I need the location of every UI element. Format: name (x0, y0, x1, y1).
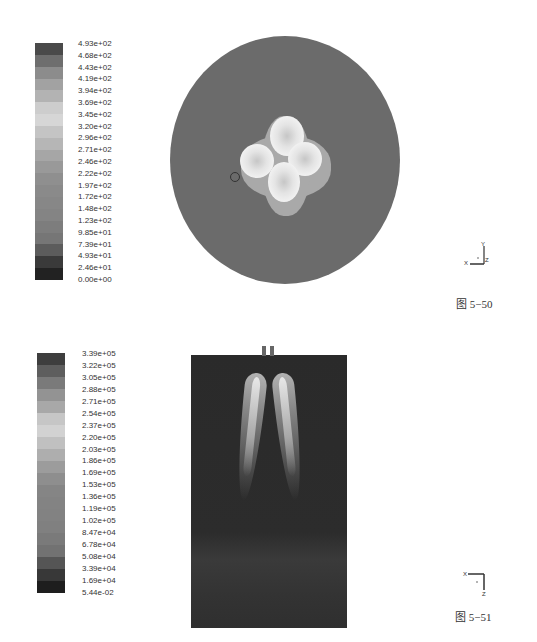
contour-plot-circle (170, 36, 400, 284)
figure-5-51: 3.39e+053.22e+053.05e+052.88e+052.71e+05… (0, 330, 537, 642)
colorbar-tick-label: 2.46e+02 (78, 158, 112, 166)
colorbar-tick-label: 7.39e+01 (78, 241, 112, 249)
colorbar-band (37, 485, 65, 497)
colorbar-band (37, 365, 65, 377)
colorbar-band (35, 173, 63, 185)
colorbar-tick-label: 2.22e+02 (78, 170, 112, 178)
colorbar-band (37, 437, 65, 449)
colorbar-band (37, 377, 65, 389)
nozzle-right (270, 346, 274, 356)
contour-plot-rectangle (191, 355, 347, 628)
colorbar-band (35, 197, 63, 209)
colorbar-tick-label: 2.37e+05 (82, 422, 116, 430)
colorbar-band (35, 161, 63, 173)
colorbar-band (37, 545, 65, 557)
colorbar-band (35, 150, 63, 162)
colorbar-band (35, 138, 63, 150)
colorbar-tick-label: 2.96e+02 (78, 134, 112, 142)
colorbar-band (35, 268, 63, 280)
colorbar-tick-label: 1.72e+02 (78, 193, 112, 201)
colorbar-band (37, 569, 65, 581)
colorbar-band (35, 209, 63, 221)
colorbar-tick-label: 3.22e+05 (82, 362, 116, 370)
colorbar (35, 43, 63, 280)
colorbar-band (35, 90, 63, 102)
colorbar-tick-label: 2.46e+01 (78, 264, 112, 272)
colorbar-tick-label: 5.44e-02 (82, 589, 116, 597)
colorbar-tick-label: 3.39e+04 (82, 565, 116, 573)
colorbar-band (35, 55, 63, 67)
colorbar-band (35, 126, 63, 138)
colorbar-tick-label: 4.93e+02 (78, 40, 112, 48)
colorbar-tick-label: 2.71e+02 (78, 146, 112, 154)
svg-text:X: X (464, 260, 468, 266)
colorbar-labels: 4.93e+024.68e+024.43e+024.19e+023.94e+02… (78, 40, 112, 284)
colorbar-band (35, 244, 63, 256)
axis-triad-icon: Y X Z (462, 240, 492, 270)
figure-5-50: 4.93e+024.68e+024.43e+024.19e+023.94e+02… (0, 0, 537, 320)
colorbar-tick-label: 3.39e+05 (82, 350, 116, 358)
colorbar-band (37, 449, 65, 461)
colorbar-tick-label: 3.20e+02 (78, 123, 112, 131)
colorbar-tick-label: 1.48e+02 (78, 205, 112, 213)
axis-triad-icon: X Z (462, 566, 492, 596)
colorbar-tick-label: 3.45e+02 (78, 111, 112, 119)
colorbar-band (35, 43, 63, 55)
colorbar-band (37, 509, 65, 521)
colorbar-tick-label: 5.08e+04 (82, 553, 116, 561)
colorbar-band (37, 353, 65, 365)
colorbar-band (37, 557, 65, 569)
colorbar-tick-label: 1.36e+05 (82, 493, 116, 501)
colorbar-tick-label: 1.53e+05 (82, 481, 116, 489)
colorbar-tick-label: 8.47e+04 (82, 529, 116, 537)
colorbar-tick-label: 4.68e+02 (78, 52, 112, 60)
colorbar-tick-label: 3.69e+02 (78, 99, 112, 107)
colorbar-band (35, 221, 63, 233)
colorbar-band (35, 67, 63, 79)
colorbar-tick-label: 1.23e+02 (78, 217, 112, 225)
colorbar-band (37, 533, 65, 545)
contour-hotspot-bottom (268, 162, 300, 202)
svg-text:Y: Y (481, 241, 485, 247)
colorbar-band (35, 102, 63, 114)
colorbar-tick-label: 1.69e+04 (82, 577, 116, 585)
figure-caption: 图 5−50 (456, 295, 492, 311)
colorbar-tick-label: 1.69e+05 (82, 469, 116, 477)
colorbar-band (35, 256, 63, 268)
colorbar-band (35, 185, 63, 197)
colorbar-tick-label: 4.19e+02 (78, 75, 112, 83)
colorbar-band (37, 401, 65, 413)
svg-text:X: X (463, 571, 467, 577)
nozzle-left (262, 346, 266, 356)
colorbar-tick-label: 1.02e+05 (82, 517, 116, 525)
colorbar-tick-label: 2.20e+05 (82, 434, 116, 442)
figure-caption: 图 5−51 (455, 608, 491, 624)
colorbar-band (35, 233, 63, 245)
colorbar-tick-label: 2.88e+05 (82, 386, 116, 394)
colorbar-tick-label: 3.94e+02 (78, 87, 112, 95)
colorbar-tick-label: 2.71e+05 (82, 398, 116, 406)
colorbar-tick-label: 1.86e+05 (82, 457, 116, 465)
svg-text:Z: Z (482, 591, 486, 596)
colorbar-tick-label: 4.93e+01 (78, 252, 112, 260)
colorbar-band (37, 497, 65, 509)
svg-text:Z: Z (485, 257, 489, 263)
colorbar-band (37, 473, 65, 485)
colorbar-band (37, 413, 65, 425)
colorbar-band (37, 425, 65, 437)
colorbar-tick-label: 3.05e+05 (82, 374, 116, 382)
colorbar (37, 353, 65, 593)
colorbar-tick-label: 1.19e+05 (82, 505, 116, 513)
colorbar-tick-label: 2.03e+05 (82, 446, 116, 454)
colorbar-tick-label: 1.97e+02 (78, 182, 112, 190)
colorbar-band (35, 114, 63, 126)
colorbar-band (37, 521, 65, 533)
colorbar-tick-label: 0.00e+00 (78, 276, 112, 284)
colorbar-tick-label: 4.43e+02 (78, 64, 112, 72)
colorbar-band (35, 79, 63, 91)
colorbar-band (37, 581, 65, 593)
colorbar-tick-label: 6.78e+04 (82, 541, 116, 549)
colorbar-tick-label: 9.85e+01 (78, 229, 112, 237)
colorbar-band (37, 461, 65, 473)
colorbar-labels: 3.39e+053.22e+053.05e+052.88e+052.71e+05… (82, 350, 116, 597)
